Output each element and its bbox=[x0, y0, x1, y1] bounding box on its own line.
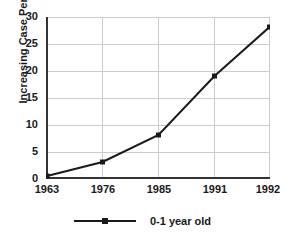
plot-svg bbox=[46, 17, 270, 179]
y-tick-label: 20 bbox=[8, 65, 38, 76]
chart-legend: 0-1 year old bbox=[0, 209, 285, 233]
data-point-marker bbox=[156, 133, 161, 138]
x-tick-label: 1963 bbox=[24, 183, 70, 196]
data-point-marker bbox=[100, 160, 105, 165]
legend-item-0-1-year-old[interactable]: 0-1 year old bbox=[74, 215, 211, 227]
legend-line-marker-icon bbox=[74, 215, 136, 227]
legend-item-label: 0-1 year old bbox=[150, 215, 211, 227]
data-point-marker bbox=[212, 74, 217, 79]
y-tick-label: 5 bbox=[8, 146, 38, 157]
y-axis-tick-labels: 30 25 20 15 10 5 0 bbox=[0, 0, 46, 196]
y-tick-label: 10 bbox=[8, 119, 38, 130]
x-tick-label: 1991 bbox=[192, 183, 238, 196]
data-point-marker bbox=[46, 174, 50, 179]
x-tick-label: 1992 bbox=[245, 183, 285, 196]
y-tick-label: 30 bbox=[8, 11, 38, 22]
x-tick-label: 1985 bbox=[136, 183, 182, 196]
x-tick-label: 1976 bbox=[80, 183, 126, 196]
line-chart: Increasing Case Percentages 30 25 20 15 … bbox=[0, 0, 285, 239]
data-point-marker bbox=[267, 25, 270, 30]
y-tick-label: 25 bbox=[8, 38, 38, 49]
y-tick-label: 15 bbox=[8, 92, 38, 103]
x-axis-tick-labels: 1963 1976 1985 1991 1992 bbox=[0, 183, 285, 201]
plot-area bbox=[46, 17, 270, 179]
